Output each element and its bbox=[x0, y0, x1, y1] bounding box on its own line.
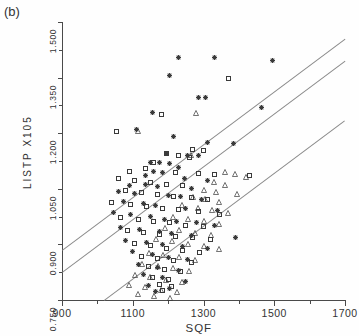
data-point-triangle bbox=[176, 254, 182, 260]
data-point-square bbox=[148, 180, 153, 185]
data-point-triangle bbox=[225, 210, 231, 216]
data-point-square bbox=[180, 248, 185, 253]
data-point-square bbox=[116, 176, 121, 181]
y-tick bbox=[58, 189, 63, 190]
data-point-star bbox=[212, 55, 217, 60]
data-point-triangle bbox=[185, 241, 191, 247]
data-point-star bbox=[270, 58, 275, 63]
y-tick bbox=[58, 22, 63, 23]
x-tick-minor bbox=[310, 301, 311, 304]
data-point-triangle bbox=[234, 191, 240, 197]
data-point-square bbox=[180, 183, 185, 188]
data-point-square bbox=[217, 212, 222, 217]
data-point-square bbox=[159, 112, 164, 117]
data-point-triangle bbox=[222, 169, 228, 175]
data-point-square bbox=[114, 129, 119, 134]
data-point-triangle bbox=[209, 207, 215, 213]
data-point-square bbox=[212, 172, 217, 177]
data-point-square bbox=[201, 224, 206, 229]
data-point-star bbox=[233, 235, 238, 240]
data-point-triangle bbox=[170, 265, 176, 271]
data-point-square bbox=[155, 192, 160, 197]
data-point-star bbox=[171, 134, 176, 139]
data-point-star bbox=[166, 255, 171, 260]
data-point-triangle bbox=[192, 257, 198, 263]
data-point-star bbox=[132, 191, 137, 196]
x-tick-label: 900 bbox=[42, 307, 82, 319]
data-point-star bbox=[182, 176, 187, 181]
y-tick-label: 1.200 bbox=[48, 132, 58, 172]
data-point-star bbox=[123, 238, 128, 243]
data-point-square bbox=[109, 200, 114, 205]
data-point-star bbox=[194, 220, 199, 225]
data-point-triangle bbox=[186, 268, 192, 274]
data-point-triangle bbox=[188, 152, 194, 158]
data-point-star bbox=[196, 153, 201, 158]
data-point-star bbox=[153, 203, 158, 208]
data-point-triangle bbox=[201, 187, 207, 193]
data-point-triangle bbox=[151, 293, 157, 299]
y-tick-label: 0.900 bbox=[48, 243, 58, 283]
y-tick bbox=[58, 78, 63, 79]
data-point-square bbox=[132, 178, 137, 183]
data-point-square bbox=[151, 219, 156, 224]
data-point-square bbox=[226, 76, 231, 81]
data-point-star bbox=[157, 160, 162, 165]
data-point-star bbox=[118, 225, 123, 230]
plot-area bbox=[62, 22, 345, 300]
data-point-star bbox=[130, 249, 135, 254]
data-point-triangle bbox=[163, 277, 169, 283]
y-tick bbox=[58, 133, 63, 134]
data-point-square bbox=[208, 237, 213, 242]
x-tick-label: 1100 bbox=[113, 307, 153, 319]
data-point-triangle bbox=[216, 221, 222, 227]
y-tick-minor bbox=[59, 50, 62, 51]
data-point-square bbox=[148, 243, 153, 248]
x-tick-label: 1300 bbox=[184, 307, 224, 319]
y-tick-minor bbox=[59, 161, 62, 162]
data-point-square bbox=[128, 202, 133, 207]
data-point-triangle bbox=[243, 174, 249, 180]
data-point-square bbox=[144, 204, 149, 209]
data-point-triangle bbox=[216, 199, 222, 205]
y-tick-minor bbox=[59, 105, 62, 106]
data-point-square bbox=[132, 241, 137, 246]
x-tick-minor bbox=[168, 301, 169, 304]
data-point-triangle bbox=[190, 194, 196, 200]
data-point-star bbox=[176, 55, 181, 60]
data-point-triangle bbox=[147, 274, 153, 280]
data-point-square bbox=[164, 151, 169, 156]
data-point-star bbox=[205, 140, 210, 145]
data-point-square bbox=[136, 217, 141, 222]
data-point-triangle bbox=[169, 238, 175, 244]
data-point-star bbox=[150, 110, 155, 115]
data-point-star bbox=[162, 217, 167, 222]
data-point-triangle bbox=[142, 284, 148, 290]
data-point-square bbox=[143, 166, 148, 171]
data-point-star bbox=[111, 210, 116, 215]
x-tick-label: 1500 bbox=[254, 307, 294, 319]
data-point-square bbox=[151, 160, 156, 165]
data-point-triangle bbox=[211, 179, 217, 185]
data-point-triangle bbox=[135, 128, 141, 134]
data-point-triangle bbox=[222, 182, 228, 188]
data-point-square bbox=[123, 188, 128, 193]
data-point-star bbox=[128, 212, 133, 217]
data-point-square bbox=[190, 235, 195, 240]
data-point-star bbox=[205, 178, 210, 183]
data-point-square bbox=[176, 153, 181, 158]
data-point-square bbox=[139, 190, 144, 195]
panel-label: (b) bbox=[4, 4, 20, 19]
data-point-triangle bbox=[126, 282, 132, 288]
data-point-star bbox=[116, 189, 121, 194]
data-point-square bbox=[164, 182, 169, 187]
data-point-triangle bbox=[135, 291, 141, 297]
x-axis-title: SQF bbox=[186, 322, 213, 334]
data-point-square bbox=[197, 250, 202, 255]
data-point-star bbox=[167, 161, 172, 166]
data-point-triangle bbox=[216, 246, 222, 252]
figure-panel: (b) LISTP X105 SQF 0.7500.9001.0501.2001… bbox=[0, 0, 359, 336]
data-point-star bbox=[259, 105, 264, 110]
data-point-star bbox=[166, 193, 171, 198]
y-tick bbox=[58, 244, 63, 245]
